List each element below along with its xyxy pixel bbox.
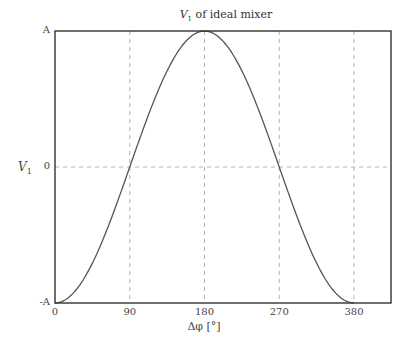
y-tick-label: 0 — [44, 160, 50, 171]
x-tick-label: 270 — [270, 306, 289, 317]
x-tick-label: 180 — [195, 306, 214, 317]
y-axis-label: V1 — [18, 160, 32, 176]
x-tick-label: 90 — [123, 306, 136, 317]
chart-title: V1 of ideal mixer — [0, 8, 412, 23]
y-tick-label: A — [43, 24, 50, 35]
grid-lines — [55, 31, 391, 303]
x-tick-label: 0 — [52, 306, 58, 317]
x-axis-label: Δφ [°] — [187, 320, 220, 333]
plot-area — [0, 0, 412, 346]
y-tick-label: -A — [39, 296, 50, 307]
x-tick-label: 380 — [344, 306, 363, 317]
